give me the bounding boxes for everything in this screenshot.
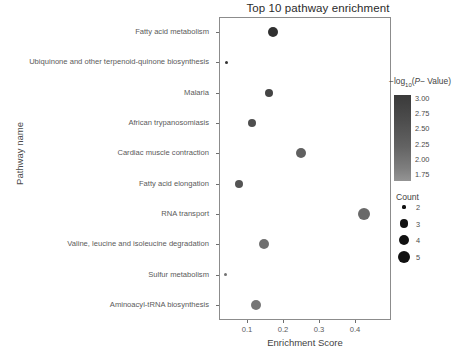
size-legend-dot [400, 219, 408, 227]
size-legend-label: 5 [416, 253, 420, 262]
size-legend-items: 2345 [0, 0, 470, 354]
size-legend-dot [399, 235, 409, 245]
size-legend-label: 3 [416, 220, 420, 229]
size-legend-dot [402, 205, 405, 208]
size-legend-label: 2 [416, 203, 420, 212]
size-legend-label: 4 [416, 236, 420, 245]
chart-root: Top 10 pathway enrichment Pathway name F… [0, 0, 470, 354]
size-legend-dot [398, 251, 410, 263]
